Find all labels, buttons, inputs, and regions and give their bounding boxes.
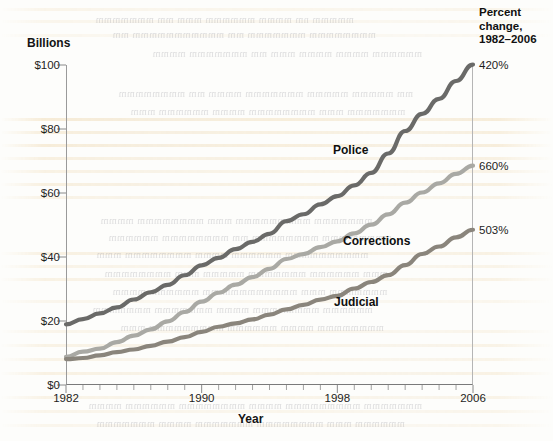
x-axis-title: Year <box>238 412 263 426</box>
x-axis-ticks <box>66 385 473 393</box>
percent-change-corrections: 660% <box>479 160 508 172</box>
y-axis-tick-label: $40 <box>2 251 60 263</box>
percent-change-police: 420% <box>479 59 508 71</box>
y-axis-tick-label: $60 <box>2 187 60 199</box>
y-axis-tick-label: $20 <box>2 315 60 327</box>
percent-change-header: Percent change, 1982–2006 <box>479 6 553 47</box>
percent-change-header-line2: change, <box>479 20 553 34</box>
series-lines <box>66 65 473 360</box>
y-axis-label-group: $0$20$40$60$80$100 <box>0 0 60 441</box>
series-line-police <box>66 65 473 325</box>
percent-change-header-line1: Percent <box>479 6 553 20</box>
series-label-judicial: Judicial <box>334 295 379 309</box>
percent-change-judicial: 503% <box>479 224 508 236</box>
x-axis-tick-label: 1990 <box>189 392 215 404</box>
y-axis-title: Billions <box>27 36 70 50</box>
x-axis-tick-label: 2006 <box>460 392 486 404</box>
y-axis-tick-label: $0 <box>2 379 60 391</box>
percent-change-header-line3: 1982–2006 <box>479 33 553 47</box>
series-label-corrections: Corrections <box>343 234 410 248</box>
y-axis-tick-label: $100 <box>2 59 60 71</box>
x-axis-tick-label: 1982 <box>53 392 79 404</box>
x-axis-tick-label: 1998 <box>325 392 351 404</box>
chart-canvas <box>0 0 553 441</box>
y-axis-tick-label: $80 <box>2 123 60 135</box>
series-label-police: Police <box>333 143 368 157</box>
